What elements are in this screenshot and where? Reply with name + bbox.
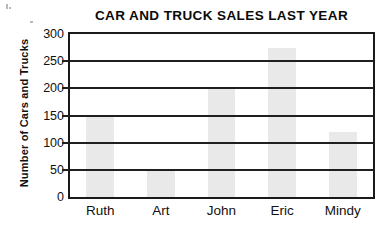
y-axis-tick-label: 200 (28, 82, 64, 95)
y-axis-tick-label: 0 (28, 191, 64, 204)
scan-artifact-icon (9, 7, 11, 9)
x-axis-tick-label: Ruth (70, 203, 131, 218)
chart-title: CAR AND TRUCK SALES LAST YEAR (68, 8, 375, 23)
y-axis-tick-label: 150 (28, 110, 64, 123)
x-axis-tick-label: Eric (252, 203, 313, 218)
gridline (70, 87, 373, 89)
y-axis-tick-mark (62, 142, 69, 144)
y-axis-tick-label: 250 (28, 55, 64, 68)
scan-artifact-icon (30, 21, 33, 23)
scan-artifact-icon (6, 4, 8, 9)
gridline (70, 115, 373, 117)
gridline (70, 169, 373, 171)
x-axis-tick-labels: RuthArtJohnEricMindy (68, 203, 375, 227)
y-axis-tick-mark (62, 169, 69, 171)
bar-chart-figure: CAR AND TRUCK SALES LAST YEAR Number of … (0, 0, 390, 237)
x-axis-tick-label: John (191, 203, 252, 218)
x-axis-tick-label: Art (131, 203, 192, 218)
y-axis-tick-label: 50 (28, 164, 64, 177)
gridlines-layer (70, 34, 373, 197)
gridline (70, 60, 373, 62)
y-axis-tick-mark (62, 60, 69, 62)
y-axis-tick-label: 300 (28, 28, 64, 41)
y-axis-tick-labels: 050100150200250300 (22, 32, 64, 199)
gridline (70, 142, 373, 144)
plot-area (68, 32, 375, 199)
y-axis-tick-mark (62, 87, 69, 89)
x-axis-tick-label: Mindy (312, 203, 373, 218)
y-axis-tick-label: 100 (28, 137, 64, 150)
y-axis-tick-mark (62, 115, 69, 117)
